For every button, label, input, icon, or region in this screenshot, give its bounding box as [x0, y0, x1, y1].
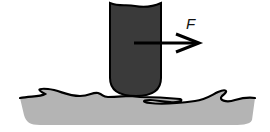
force-label: F — [186, 15, 195, 32]
probe-tip — [110, 3, 161, 96]
friction-diagram — [0, 0, 270, 132]
